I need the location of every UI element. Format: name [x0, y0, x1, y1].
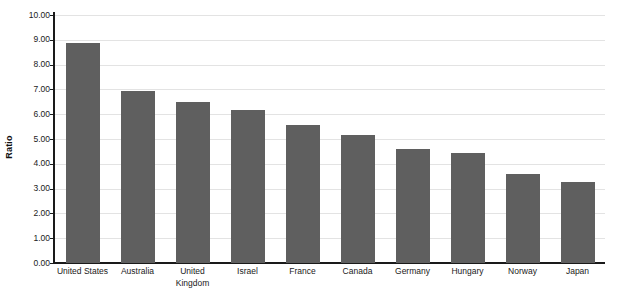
y-axis-tick-mark	[50, 213, 54, 214]
x-axis-category-label: Canada	[330, 266, 385, 278]
y-axis-tick-label: 8.00	[14, 60, 50, 69]
y-axis-tick-mark	[50, 40, 54, 41]
y-axis-tick-label: 6.00	[14, 110, 50, 119]
y-axis-tick-mark	[50, 65, 54, 66]
x-axis-category-label: United States	[55, 266, 110, 278]
y-axis-tick-label: 3.00	[14, 184, 50, 193]
x-axis-category-label: Israel	[220, 266, 275, 278]
y-axis-tick-label: 7.00	[14, 85, 50, 94]
y-axis-tick-mark	[50, 238, 54, 239]
y-axis-tick-label: 9.00	[14, 35, 50, 44]
y-axis-tick-mark	[50, 114, 54, 115]
bars-layer	[55, 10, 607, 263]
bar	[506, 174, 540, 263]
x-axis-category-label: Japan	[550, 266, 605, 278]
x-axis-category-label: Germany	[385, 266, 440, 278]
y-axis-tick-label: 10.00	[14, 11, 50, 20]
x-axis-category-label: France	[275, 266, 330, 278]
y-axis-tick-label: 4.00	[14, 159, 50, 168]
bar-chart: Ratio 10.009.008.007.006.005.004.003.002…	[0, 0, 617, 304]
bar	[286, 125, 320, 263]
bar	[231, 110, 265, 263]
y-axis-tick-mark	[50, 89, 54, 90]
bar	[121, 91, 155, 263]
y-axis-tick-labels: 10.009.008.007.006.005.004.003.002.001.0…	[8, 0, 50, 304]
x-axis-category-labels: United StatesAustraliaUnited KingdomIsra…	[55, 266, 607, 304]
y-axis-tick-mark	[50, 263, 54, 264]
y-axis-tick-mark	[50, 164, 54, 165]
x-axis-category-label: Hungary	[440, 266, 495, 278]
y-axis-tick-label: 1.00	[14, 234, 50, 243]
y-axis-tick-label: 5.00	[14, 135, 50, 144]
bar	[176, 102, 210, 263]
y-axis-tick-mark	[50, 189, 54, 190]
y-axis-tick-label: 2.00	[14, 209, 50, 218]
y-axis-tick-label: 0.00	[14, 259, 50, 268]
x-axis-category-label: Australia	[110, 266, 165, 278]
x-axis-category-label: Norway	[495, 266, 550, 278]
bar	[451, 153, 485, 263]
bar	[561, 182, 595, 263]
bar	[66, 43, 100, 263]
bar	[396, 149, 430, 263]
y-axis-tick-mark	[50, 15, 54, 16]
bar	[341, 135, 375, 263]
y-axis-tick-mark	[50, 139, 54, 140]
x-axis-category-label: United Kingdom	[165, 266, 220, 289]
